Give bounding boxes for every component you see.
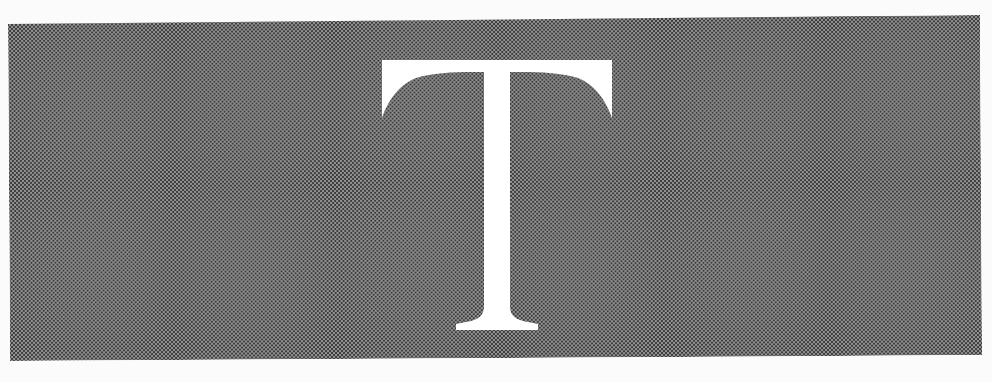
scanned-page: T [0, 0, 992, 382]
letter-t-glyph [382, 60, 612, 330]
initial-letter: T [382, 60, 612, 330]
